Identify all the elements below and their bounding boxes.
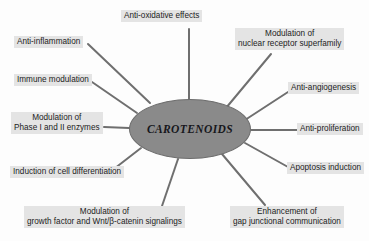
node-label-line2: gap junctional communication — [233, 217, 341, 227]
node-label-line1: Anti-angiogenesis — [291, 83, 356, 93]
spoke-apoptosis-induction — [245, 143, 288, 167]
diagram-canvas: CAROTENOIDS Anti-oxidative effects Modul… — [0, 0, 369, 241]
node-anti-angiogenesis[interactable]: Anti-angiogenesis — [288, 82, 359, 94]
node-label-line2: growth factor and Wnt/β-catenin signalin… — [27, 217, 182, 227]
node-immune-modulation[interactable]: Immune modulation — [14, 74, 92, 86]
node-modulation-of-growth-factor-and-wnt-beta-catenin-signalings[interactable]: Modulation of growth factor and Wnt/β-ca… — [24, 206, 185, 228]
node-modulation-of-nuclear-receptor-superfamily[interactable]: Modulation of nuclear receptor superfami… — [235, 28, 344, 50]
node-apoptosis-induction[interactable]: Apoptosis induction — [287, 162, 364, 174]
node-label-line1: Anti-inflammation — [17, 37, 80, 47]
node-label-line1: Modulation of — [14, 113, 100, 123]
node-induction-of-cell-differentiation[interactable]: Induction of cell differentiation — [10, 166, 124, 178]
hub-label: CAROTENOIDS — [147, 123, 233, 135]
node-anti-proliferation[interactable]: Anti-proliferation — [297, 123, 363, 135]
spoke-modulation-of-phase-i-and-ii-enzymes — [104, 127, 129, 128]
node-anti-oxidative-effects[interactable]: Anti-oxidative effects — [121, 10, 202, 22]
spoke-anti-inflammation — [88, 44, 150, 103]
node-enhancement-of-gap-junctional-communication[interactable]: Enhancement of gap junctional communicat… — [230, 206, 344, 228]
spoke-anti-angiogenesis — [245, 92, 288, 120]
node-label-line1: Immune modulation — [17, 75, 89, 85]
hub-carotenoids[interactable]: CAROTENOIDS — [129, 99, 251, 159]
spoke-immune-modulation — [92, 82, 137, 113]
node-modulation-of-phase-i-and-ii-enzymes[interactable]: Modulation of Phase I and II enzymes — [11, 112, 103, 134]
node-anti-inflammation[interactable]: Anti-inflammation — [14, 36, 83, 48]
node-label-line2: nuclear receptor superfamily — [238, 39, 341, 49]
spoke-modulation-of-nuclear-receptor-superfamily — [226, 54, 271, 108]
node-label-line1: Apoptosis induction — [290, 163, 361, 173]
node-label-line1: Anti-oxidative effects — [124, 11, 199, 21]
node-label-line1: Modulation of — [27, 207, 182, 217]
node-label-line2: Phase I and II enzymes — [14, 123, 100, 133]
node-label-line1: Anti-proliferation — [300, 124, 360, 134]
spoke-modulation-of-growth-factor — [162, 159, 178, 206]
node-label-line1: Modulation of — [238, 29, 341, 39]
node-label-line1: Induction of cell differentiation — [13, 167, 121, 177]
node-label-line1: Enhancement of — [233, 207, 341, 217]
spoke-enhancement-of-gap-junctional-communication — [222, 154, 265, 205]
